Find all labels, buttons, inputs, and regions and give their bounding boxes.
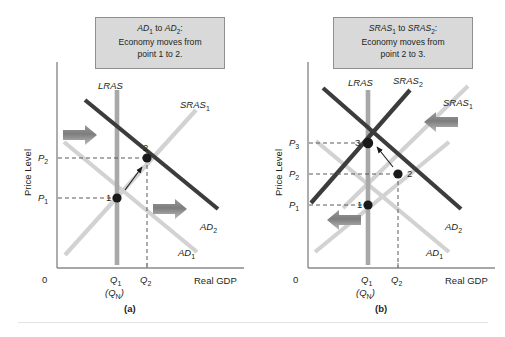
callout-b-line2: Economy moves from xyxy=(340,37,466,49)
x-tick-qn-a: (QN) xyxy=(105,288,124,300)
curve-label-lras-a: LRAS xyxy=(98,81,123,91)
point-1-marker-b xyxy=(363,200,372,209)
callout-b-line1: SRAS1 to SRAS2: xyxy=(340,23,466,37)
x-tick-q1-a: Q1 xyxy=(110,275,121,287)
panel-a: AD1 to AD2: Economy moves from point 1 t… xyxy=(0,0,252,320)
panel-a-caption: (a) xyxy=(124,303,136,314)
axes-group-a xyxy=(57,62,244,268)
callout-a-line2: Economy moves from xyxy=(102,37,218,49)
panels-row: AD1 to AD2: Economy moves from point 1 t… xyxy=(0,0,505,337)
movement-arrow-a xyxy=(125,167,142,190)
callout-a-line1: AD1 to AD2: xyxy=(102,23,218,37)
origin-label-b: 0 xyxy=(293,275,298,285)
curve-label-ad1-b: AD1 xyxy=(426,248,443,260)
curve-label-ad1-a: AD1 xyxy=(178,248,195,260)
bottom-divider xyxy=(18,322,488,323)
curve-ad2-a xyxy=(85,100,218,209)
x-tick-q2-b: Q2 xyxy=(391,275,402,287)
x-tick-q2-a: Q2 xyxy=(140,275,151,287)
y-tick-p1-b: P1 xyxy=(289,200,299,212)
point-2-label-b: 2 xyxy=(407,169,412,179)
callout-a-line3: point 1 to 2. xyxy=(102,49,218,61)
callout-box-a: AD1 to AD2: Economy moves from point 1 t… xyxy=(95,17,225,69)
point-2-label-a: 2 xyxy=(143,143,148,153)
callout-b-line3: point 2 to 3. xyxy=(340,49,466,61)
curve-label-ad2-b: AD2 xyxy=(445,222,462,234)
point-2-marker-a xyxy=(142,153,151,162)
point-1-label-b: 1 xyxy=(357,200,362,210)
shift-arrow-upper-a xyxy=(63,125,97,145)
curve-label-lras-b: LRAS xyxy=(348,78,373,88)
x-tick-q1-b: Q1 xyxy=(361,275,372,287)
panel-b-caption: (b) xyxy=(375,303,387,314)
y-axis-title-b: Price Level xyxy=(273,149,284,196)
callout-box-b: SRAS1 to SRAS2: Economy moves from point… xyxy=(333,17,473,69)
y-tick-p3-b: P3 xyxy=(289,138,299,150)
curve-label-sras2-b: SRAS2 xyxy=(393,76,423,88)
x-axis-title-a: Real GDP xyxy=(194,275,237,286)
panel-b: SRAS1 to SRAS2: Economy moves from point… xyxy=(253,0,505,320)
origin-label-a: 0 xyxy=(42,275,47,285)
y-tick-p2-a: P2 xyxy=(38,153,48,165)
figure-container: AD1 to AD2: Economy moves from point 1 t… xyxy=(0,0,505,337)
point-2-marker-b xyxy=(393,169,402,178)
y-axis-title-a: Price Level xyxy=(22,149,33,196)
curve-label-sras1-b: SRAS1 xyxy=(443,98,473,110)
x-tick-qn-b: (QN) xyxy=(356,288,375,300)
shift-arrow-lower-a xyxy=(153,199,187,219)
dashed-guides-b xyxy=(309,143,398,268)
point-3-label-b: 3 xyxy=(355,138,360,148)
x-axis-title-b: Real GDP xyxy=(445,275,488,286)
y-tick-p2-b: P2 xyxy=(289,169,299,181)
point-3-marker-b xyxy=(363,138,373,148)
y-tick-p1-a: P1 xyxy=(38,193,48,205)
point-1-label-a: 1 xyxy=(106,193,111,203)
curve-label-ad2-a: AD2 xyxy=(200,222,217,234)
curve-label-sras1-a: SRAS1 xyxy=(180,100,210,112)
point-1-marker-a xyxy=(112,193,121,202)
